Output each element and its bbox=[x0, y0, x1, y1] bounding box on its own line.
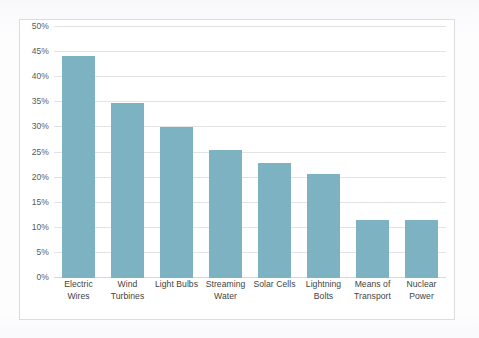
bars bbox=[54, 27, 446, 278]
bar[interactable] bbox=[405, 220, 438, 278]
x-axis-category-label: Solar Cells bbox=[250, 279, 299, 291]
y-axis-tick-label: 0% bbox=[37, 272, 50, 282]
bar[interactable] bbox=[356, 220, 389, 278]
x-axis-category-label: Light Bulbs bbox=[152, 279, 201, 291]
bar-slot bbox=[54, 27, 103, 278]
bar-slot bbox=[397, 27, 446, 278]
x-axis-category-labels: Electric WiresWind TurbinesLight BulbsSt… bbox=[54, 279, 446, 319]
bar-slot bbox=[348, 27, 397, 278]
bar-slot bbox=[299, 27, 348, 278]
x-axis-category-label: Lightning Bolts bbox=[299, 279, 348, 302]
y-axis-tick-label: 10% bbox=[32, 222, 49, 232]
chart-page: 0%5%10%15%20%25%30%35%40%45%50% Electric… bbox=[0, 0, 479, 338]
x-axis-category-label: Wind Turbines bbox=[103, 279, 152, 302]
bar[interactable] bbox=[111, 103, 144, 278]
y-axis-tick-label: 50% bbox=[32, 21, 49, 31]
bar[interactable] bbox=[160, 127, 193, 278]
bar[interactable] bbox=[307, 174, 340, 278]
y-axis-tick-label: 15% bbox=[32, 197, 49, 207]
plot-area: 0%5%10%15%20%25%30%35%40%45%50% bbox=[54, 27, 446, 278]
bar-slot bbox=[103, 27, 152, 278]
y-axis-tick-label: 35% bbox=[32, 96, 49, 106]
x-axis-category-label: Streaming Water bbox=[201, 279, 250, 302]
y-axis-tick-label: 45% bbox=[32, 46, 49, 56]
chart-frame: 0%5%10%15%20%25%30%35%40%45%50% Electric… bbox=[19, 19, 455, 320]
y-axis-tick-label: 30% bbox=[32, 121, 49, 131]
bar-slot bbox=[152, 27, 201, 278]
x-axis-category-label: Electric Wires bbox=[54, 279, 103, 302]
bar-slot bbox=[201, 27, 250, 278]
x-axis-category-label: Means of Transport bbox=[348, 279, 397, 302]
y-axis-tick-label: 20% bbox=[32, 172, 49, 182]
x-axis-category-label: Nuclear Power bbox=[397, 279, 446, 302]
bar[interactable] bbox=[258, 163, 291, 278]
y-axis-tick-label: 25% bbox=[32, 147, 49, 157]
y-axis-tick-label: 40% bbox=[32, 71, 49, 81]
bar-slot bbox=[250, 27, 299, 278]
bar[interactable] bbox=[62, 56, 95, 278]
bar[interactable] bbox=[209, 150, 242, 278]
y-axis-tick-label: 5% bbox=[37, 247, 50, 257]
